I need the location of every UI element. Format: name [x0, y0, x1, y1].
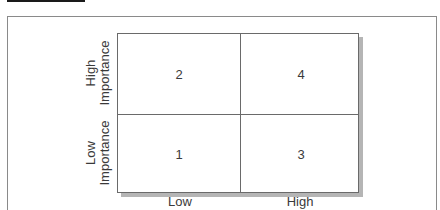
- y-label-low-line2: Importance: [98, 120, 112, 185]
- y-label-low-importance: Low Importance: [84, 120, 112, 185]
- x-label-low: Low: [168, 194, 192, 209]
- y-label-high-line2: Importance: [98, 40, 112, 105]
- vertical-divider: [240, 34, 241, 192]
- heading-underline-bar: [7, 0, 85, 2]
- cell-bottom-left-value: 1: [175, 147, 182, 162]
- x-label-high: High: [287, 194, 314, 209]
- cell-bottom-right-value: 3: [297, 147, 304, 162]
- importance-matrix: 2 4 1 3: [117, 33, 359, 193]
- horizontal-divider: [118, 114, 358, 115]
- cell-top-left-value: 2: [175, 67, 182, 82]
- y-label-high-line1: High: [84, 40, 98, 105]
- cell-top-right-value: 4: [297, 67, 304, 82]
- y-label-low-line1: Low: [84, 120, 98, 185]
- y-label-high-importance: High Importance: [84, 40, 112, 105]
